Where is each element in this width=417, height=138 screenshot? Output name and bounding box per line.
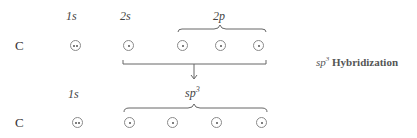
- orbital-sp3-3: [211, 117, 222, 128]
- diagram-title: sp3 Hybridization: [316, 55, 398, 68]
- orbital-1s-bottom: [72, 117, 83, 128]
- title-sp: sp: [316, 56, 326, 68]
- element-symbol-top: C: [15, 38, 24, 54]
- orbital-2p-3: [253, 40, 264, 51]
- label-sp3-sup: 3: [196, 85, 200, 94]
- label-2p: 2p: [213, 9, 225, 24]
- label-2s: 2s: [120, 9, 131, 24]
- orbital-sp3-2: [167, 117, 178, 128]
- label-sp3-base: sp: [185, 86, 196, 100]
- orbital-2p-1: [177, 40, 188, 51]
- title-sup: 3: [326, 55, 330, 63]
- label-sp3: sp3: [185, 85, 200, 101]
- label-1s-top: 1s: [66, 9, 77, 24]
- orbital-1s-top: [70, 40, 81, 51]
- orbital-sp3-1: [124, 117, 135, 128]
- orbital-2p-2: [215, 40, 226, 51]
- orbital-sp3-4: [256, 117, 267, 128]
- label-1s-bottom: 1s: [68, 87, 79, 102]
- connector-lines: [0, 0, 417, 138]
- orbital-2s: [123, 40, 134, 51]
- element-symbol-bottom: C: [15, 115, 24, 131]
- title-hybridization: Hybridization: [332, 56, 398, 68]
